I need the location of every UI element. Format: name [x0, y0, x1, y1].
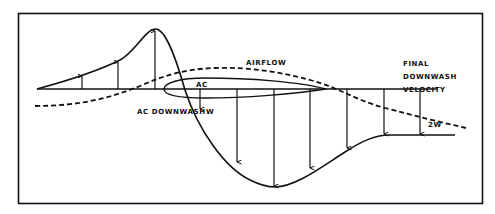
velocity-curve	[37, 29, 455, 187]
figure-frame	[19, 14, 483, 204]
two-w-label: 2W	[428, 121, 442, 129]
w-label: W	[206, 108, 214, 116]
final-label-line1: FINAL	[403, 60, 429, 68]
ac-label: AC	[196, 81, 208, 89]
downwash-diagram: AIRFLOW AC AC DOWNWASH W FINAL DOWNWASH …	[0, 0, 495, 214]
final-label-line3: VELOCITY	[403, 86, 446, 94]
airfoil	[164, 78, 326, 98]
airflow-label: AIRFLOW	[246, 59, 286, 67]
ac-downwash-label: AC DOWNWASH	[137, 108, 206, 116]
airflow-line	[35, 68, 466, 128]
final-label-line2: DOWNWASH	[403, 73, 457, 81]
